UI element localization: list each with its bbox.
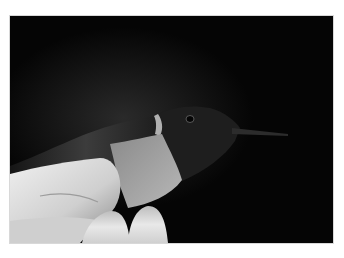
hummingbird-photo <box>10 16 333 243</box>
photo-illustration <box>10 16 333 243</box>
bird-eye <box>186 116 194 123</box>
